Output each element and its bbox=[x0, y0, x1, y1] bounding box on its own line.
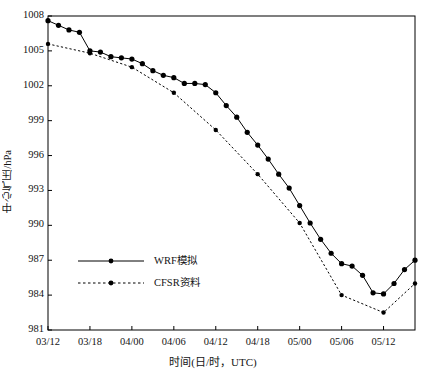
x-axis-title: 时间(日/时，UTC) bbox=[0, 353, 426, 369]
data-point bbox=[391, 281, 396, 286]
y-tick-label: 987 bbox=[0, 253, 44, 264]
y-tick-label: 1005 bbox=[0, 44, 44, 55]
data-point bbox=[214, 128, 218, 132]
data-point bbox=[276, 172, 281, 177]
legend-label-wrf: WRF模拟 bbox=[154, 252, 197, 267]
data-point bbox=[98, 49, 103, 54]
y-tick-label: 981 bbox=[0, 323, 44, 334]
y-tick-label: 990 bbox=[0, 218, 44, 229]
legend-swatch-solid bbox=[78, 253, 144, 265]
y-axis-title: 中心气压/hPa bbox=[2, 150, 18, 213]
data-point bbox=[46, 42, 50, 46]
x-tick-label: 05/12 bbox=[359, 336, 409, 347]
data-point bbox=[318, 237, 323, 242]
legend-label-cfsr: CFSR资料 bbox=[154, 274, 200, 289]
data-point bbox=[360, 273, 365, 278]
data-point bbox=[402, 267, 407, 272]
y-tick-label: 984 bbox=[0, 288, 44, 299]
data-point bbox=[182, 81, 187, 86]
data-point bbox=[297, 221, 301, 225]
data-point bbox=[413, 281, 417, 285]
data-point bbox=[308, 220, 313, 225]
data-point bbox=[130, 65, 134, 69]
data-point bbox=[349, 263, 354, 268]
data-point bbox=[256, 172, 260, 176]
data-point bbox=[234, 115, 239, 120]
data-point bbox=[66, 27, 71, 32]
data-point bbox=[171, 75, 176, 80]
data-point bbox=[381, 310, 385, 314]
data-point bbox=[192, 81, 197, 86]
data-point bbox=[213, 90, 218, 95]
data-point bbox=[381, 291, 386, 296]
data-point bbox=[88, 51, 92, 55]
data-point bbox=[172, 91, 176, 95]
data-point bbox=[45, 18, 50, 23]
data-point bbox=[329, 251, 334, 256]
data-point bbox=[161, 73, 166, 78]
data-point bbox=[56, 23, 61, 28]
data-point bbox=[339, 261, 344, 266]
y-tick-label: 1002 bbox=[0, 79, 44, 90]
data-point bbox=[266, 156, 271, 161]
chart-legend: WRF模拟 CFSR资料 bbox=[78, 248, 200, 292]
data-point bbox=[412, 258, 417, 263]
pressure-time-series-chart: 981984987990993996999100210051008 03/120… bbox=[0, 0, 426, 374]
data-point bbox=[224, 103, 229, 108]
legend-item-cfsr: CFSR资料 bbox=[78, 270, 200, 292]
data-point bbox=[129, 56, 134, 61]
data-point bbox=[245, 130, 250, 135]
legend-swatch-dashed bbox=[78, 275, 144, 287]
data-point bbox=[108, 54, 113, 59]
data-point bbox=[287, 186, 292, 191]
data-point bbox=[140, 61, 145, 66]
data-point bbox=[150, 68, 155, 73]
y-tick-label: 999 bbox=[0, 114, 44, 125]
plot-canvas bbox=[0, 0, 426, 374]
data-point bbox=[370, 290, 375, 295]
legend-item-wrf: WRF模拟 bbox=[78, 248, 200, 270]
data-point bbox=[339, 293, 343, 297]
data-point bbox=[203, 82, 208, 87]
y-tick-label: 1008 bbox=[0, 9, 44, 20]
data-point bbox=[255, 142, 260, 147]
data-point bbox=[119, 55, 124, 60]
data-point bbox=[297, 203, 302, 208]
data-point bbox=[77, 30, 82, 35]
